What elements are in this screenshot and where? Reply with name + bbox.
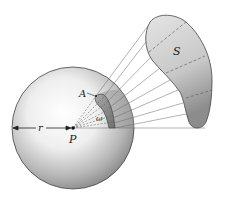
area-a-dot [95, 95, 97, 97]
solid-angle-diagram: S A r P ω [0, 0, 229, 197]
label-a: A [78, 88, 86, 99]
point-p [71, 126, 75, 130]
label-omega: ω [96, 114, 103, 123]
label-s: S [173, 45, 181, 58]
label-p: P [68, 133, 77, 146]
